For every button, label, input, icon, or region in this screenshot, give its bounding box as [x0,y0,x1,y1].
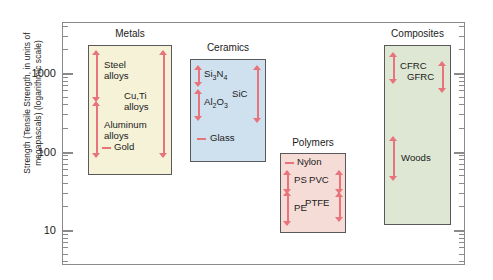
arrow-shaft [393,55,395,81]
group-title-metals: Metals [88,28,172,39]
axis-tick-left-90 [62,155,68,156]
range-arrow-al2o3 [194,89,203,121]
axis-tick-left-500 [62,97,68,98]
axis-tick-right-800 [459,81,465,82]
arrow-head-down-icon [92,153,100,158]
range-arrow-pe [283,191,292,226]
axis-tick-right-3000 [459,36,465,37]
axis-tick-right-100 [454,152,465,154]
axis-tick-left-600 [62,90,68,91]
axis-tick-left-8 [62,238,68,239]
axis-tick-left-700 [62,85,68,86]
axis-tick-left-10 [62,230,73,232]
axis-tick-right-600 [459,90,465,91]
axis-tick-right-400 [459,104,465,105]
arrow-shaft [287,194,289,223]
arrow-shaft [198,92,200,118]
arrow-head-down-icon [283,221,291,226]
arrow-shaft [96,104,98,155]
item-label-steel-alloys: Steelalloys [104,60,129,81]
item-label-cuti-alloys: Cu,Tialloys [124,91,149,112]
axis-tick-right-20 [459,206,465,207]
axis-tick-left-7 [62,242,68,243]
range-arrow-pvc [335,170,344,194]
axis-tick-right-90 [459,155,465,156]
item-label-gold: Gold [114,142,134,153]
range-arrow-cfrc [389,52,398,84]
arrow-head-down-icon [389,79,397,84]
arrow-head-down-icon [194,82,202,87]
axis-tick-right-30 [459,193,465,194]
item-label-pvc: PVC [309,175,329,186]
arrow-shaft [393,139,395,178]
arrow-head-down-icon [194,116,202,121]
axis-tick-right-300 [459,114,465,115]
axis-tick-left-30 [62,193,68,194]
axis-tick-right-1000 [454,73,465,75]
axis-tick-left-2000 [62,49,68,50]
range-arrow-ptfe [335,192,344,222]
y-axis-title: Strength (Tensile Strength, in units of … [22,0,44,208]
axis-tick-right-2000 [459,49,465,50]
y-tick-label-10: 10 [0,225,56,236]
arrow-shaft [163,53,165,155]
range-arrow-aluminum-alloys [92,101,101,158]
item-label-si3n4: Si3N4 [204,69,227,84]
range-arrow-si3n4 [194,65,203,87]
axis-tick-left-400 [62,104,68,105]
axis-tick-right-40 [459,183,465,184]
axis-tick-left-9 [62,234,68,235]
axis-tick-right-70 [459,164,465,165]
axis-tick-left-3000 [62,36,68,37]
axis-tick-left-6 [62,247,68,248]
point-marker-glass [197,138,206,140]
arrow-shaft [442,64,444,90]
axis-tick-right-5 [459,254,465,255]
item-label-glass: Glass [210,133,235,144]
axis-tick-left-1000 [62,73,73,75]
axis-tick-left-100 [62,152,73,154]
axis-tick-left-900 [62,77,68,78]
range-arrow-woods [389,136,398,181]
range-arrow-sic [253,65,262,123]
axis-tick-right-8 [459,238,465,239]
arrow-shaft [96,53,98,99]
axis-tick-right-7 [459,242,465,243]
item-label-ptfe: PTFE [305,198,330,209]
item-label-gfrc: GFRC [407,72,434,83]
group-title-composites: Composites [384,28,451,39]
axis-tick-right-4000 [459,26,465,27]
arrow-head-down-icon [159,153,167,158]
item-label-cfrc: CFRC [400,61,427,72]
item-label-woods: Woods [401,153,431,164]
strength-comparison-chart: Strength (Tensile Strength, in units of … [0,0,493,280]
axis-tick-left-80 [62,159,68,160]
axis-tick-left-800 [62,81,68,82]
axis-tick-right-500 [459,97,465,98]
arrow-head-down-icon [389,176,397,181]
axis-tick-left-60 [62,169,68,170]
item-label-al2o3: Al2O3 [204,97,228,112]
axis-tick-right-900 [459,77,465,78]
group-title-polymers: Polymers [280,137,346,148]
axis-tick-left-4000 [62,26,68,27]
point-marker-gold [102,147,111,149]
axis-tick-left-200 [62,128,68,129]
axis-tick-right-60 [459,169,465,170]
arrow-head-down-icon [253,118,261,123]
axis-tick-left-40 [62,183,68,184]
y-tick-label-100: 100 [0,147,56,158]
range-arrow-gfrc [438,61,447,93]
arrow-head-down-icon [335,217,343,222]
item-label-sic: SiC [232,89,247,100]
axis-tick-right-200 [459,128,465,129]
axis-tick-left-4 [62,261,68,262]
axis-tick-left-50 [62,175,68,176]
axis-tick-right-700 [459,85,465,86]
y-tick-label-1000: 1000 [0,68,56,79]
range-arrow-cuti-alloys [159,50,168,158]
axis-tick-right-50 [459,175,465,176]
arrow-head-down-icon [438,88,446,93]
arrow-shaft [339,195,341,219]
range-arrow-steel-alloys [92,50,101,102]
